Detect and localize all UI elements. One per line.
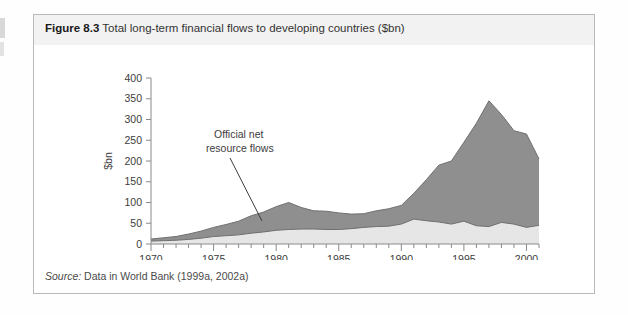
figure-source: Source: Data in World Bank (1999a, 2002a… bbox=[45, 270, 249, 282]
figure-number: Figure 8.3 bbox=[45, 22, 99, 34]
x-axis-tick-label: 1985 bbox=[327, 253, 351, 260]
chart-plot-area: 050100150200250300350400 197019751980198… bbox=[34, 45, 596, 260]
figure-caption: Figure 8.3 Total long-term financial flo… bbox=[45, 22, 405, 34]
official-annotation-leader-line bbox=[230, 158, 262, 221]
private-annotation: Private net resource flows bbox=[315, 135, 383, 161]
y-axis-title: $bn bbox=[102, 152, 114, 170]
official-annotation-line1: Official net bbox=[214, 128, 263, 140]
private-annotation-line1: Private net bbox=[324, 135, 374, 147]
figure-caption-text: Total long-term financial flows to devel… bbox=[102, 22, 404, 34]
x-axis-tick-label: 1990 bbox=[390, 253, 414, 260]
private-net-resource-flows-area bbox=[151, 101, 539, 244]
page-canvas: Figure 8.3 Total long-term financial flo… bbox=[0, 0, 628, 315]
figure-box: Figure 8.3 Total long-term financial flo… bbox=[33, 14, 595, 294]
private-annotation-line2: resource flows bbox=[315, 149, 383, 161]
page-edge-mark-top bbox=[0, 18, 5, 38]
y-axis-tick-label: 100 bbox=[124, 196, 142, 208]
x-axis-tick-label: 1970 bbox=[139, 253, 163, 260]
y-axis-tick-label: 250 bbox=[124, 134, 142, 146]
y-axis: 050100150200250300350400 bbox=[124, 72, 151, 250]
x-axis: 1970197519801985199019952000 bbox=[139, 244, 539, 260]
chart-series-group bbox=[151, 101, 539, 244]
x-axis-tick-label: 1980 bbox=[264, 253, 288, 260]
y-axis-tick-label: 350 bbox=[124, 92, 142, 104]
official-annotation: Official net resource flows bbox=[206, 128, 274, 221]
official-annotation-line2: resource flows bbox=[206, 142, 274, 154]
y-axis-tick-label: 200 bbox=[124, 155, 142, 167]
page-edge-mark-bottom bbox=[0, 42, 4, 56]
source-label: Source: bbox=[45, 270, 81, 282]
y-axis-tick-label: 300 bbox=[124, 113, 142, 125]
x-axis-tick-label: 1995 bbox=[452, 253, 476, 260]
area-chart: 050100150200250300350400 197019751980198… bbox=[34, 45, 596, 260]
y-axis-tick-label: 50 bbox=[130, 217, 142, 229]
x-axis-tick-label: 1975 bbox=[202, 253, 226, 260]
y-axis-tick-label: 0 bbox=[136, 238, 142, 250]
x-axis-tick-label: 2000 bbox=[515, 253, 539, 260]
y-axis-tick-label: 400 bbox=[124, 72, 142, 84]
y-axis-tick-label: 150 bbox=[124, 175, 142, 187]
source-text: Data in World Bank (1999a, 2002a) bbox=[81, 270, 248, 282]
